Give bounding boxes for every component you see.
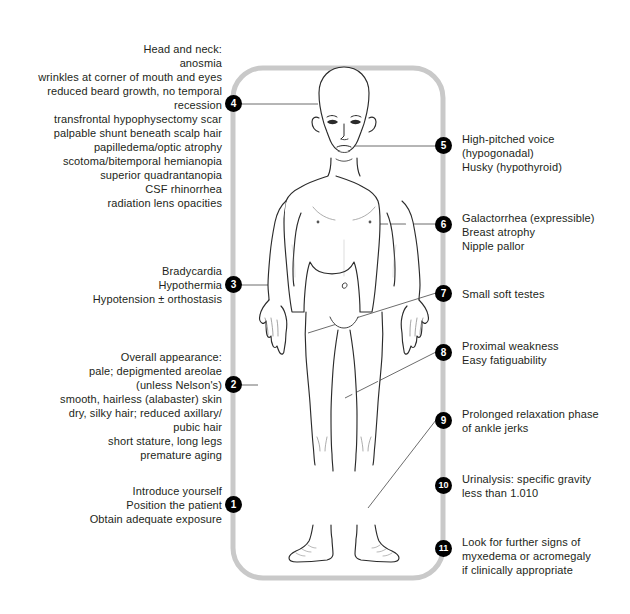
marker-11[interactable]: 11 (435, 540, 452, 557)
leg-left-outer (305, 312, 315, 465)
groin (330, 317, 358, 328)
marker-3[interactable]: 3 (225, 276, 242, 293)
arm-left-outer (268, 201, 286, 300)
marker-7[interactable]: 7 (435, 285, 452, 302)
leg-left-inner (331, 330, 338, 471)
marker-5[interactable]: 5 (435, 137, 452, 154)
brow-right (351, 116, 361, 118)
hand-right (401, 300, 428, 354)
label-text-9: Prolonged relaxation phase of ankle jerk… (462, 407, 627, 435)
foot-right (355, 525, 399, 562)
leg-right-outer (373, 312, 383, 465)
marker-9[interactable]: 9 (435, 412, 452, 429)
nipple-left (317, 221, 320, 224)
label-text-3: Bradycardia Hypothermia Hypotension ± or… (20, 264, 222, 306)
hand-left (260, 300, 287, 354)
marker-10[interactable]: 10 (435, 477, 452, 494)
leader-8 (345, 352, 436, 398)
diagram-canvas: Head and neck: anosmia wrinkles at corne… (0, 0, 630, 614)
ear-left (312, 117, 319, 132)
label-text-2: Overall appearance: pale; depigmented ar… (12, 350, 222, 462)
marker-2[interactable]: 2 (225, 376, 242, 393)
mouth-lower (338, 151, 350, 153)
label-text-10: Urinalysis: specific gravity less than 1… (462, 472, 627, 500)
arm-right-outer (402, 201, 420, 300)
label-text-11: Look for further signs of myxedema or ac… (462, 535, 630, 577)
knee-right (361, 437, 371, 451)
label-text-8: Proximal weakness Easy fatiguability (462, 339, 627, 367)
marker-4[interactable]: 4 (225, 95, 242, 112)
marker-8[interactable]: 8 (435, 344, 452, 361)
brow-left (327, 116, 337, 118)
chin (336, 159, 352, 161)
ear-right (369, 117, 376, 132)
navel (342, 283, 347, 288)
anatomical-male-figure (260, 67, 429, 562)
label-text-6: Galactorrhea (expressible) Breast atroph… (462, 211, 627, 253)
leg-right-inner (350, 330, 357, 471)
knee-left (317, 437, 327, 451)
marker-6[interactable]: 6 (435, 216, 452, 233)
label-text-4: Head and neck: anosmia wrinkles at corne… (10, 42, 222, 210)
label-text-7: Small soft testes (462, 287, 627, 301)
label-text-5: High-pitched voice (hypogonadal) Husky (… (462, 132, 627, 174)
label-text-1: Introduce yourself Position the patient … (20, 484, 222, 526)
torso-outline (284, 176, 380, 312)
mouth (337, 146, 351, 148)
foot-left (289, 525, 333, 562)
nipple-right (369, 221, 372, 224)
marker-1[interactable]: 1 (225, 496, 242, 513)
nose-base (341, 139, 348, 140)
leader-9 (368, 420, 436, 508)
